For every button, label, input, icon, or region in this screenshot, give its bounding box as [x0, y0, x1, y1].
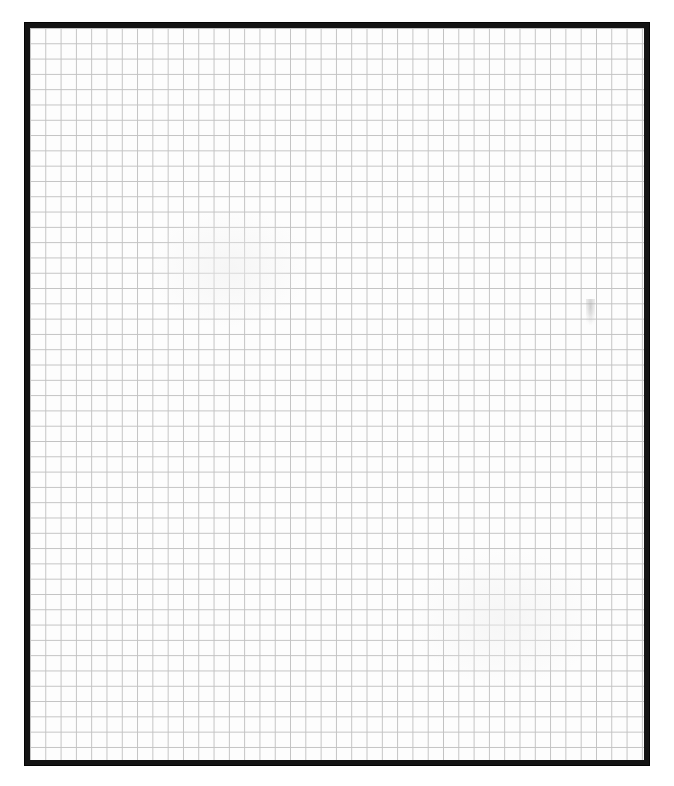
border-frame [24, 22, 650, 766]
page-surface [0, 0, 674, 786]
smudge-mark [586, 299, 595, 325]
graph-paper-grid [30, 28, 644, 760]
paper-tone-blotch [150, 208, 310, 328]
paper-tone-blotch [410, 548, 600, 688]
